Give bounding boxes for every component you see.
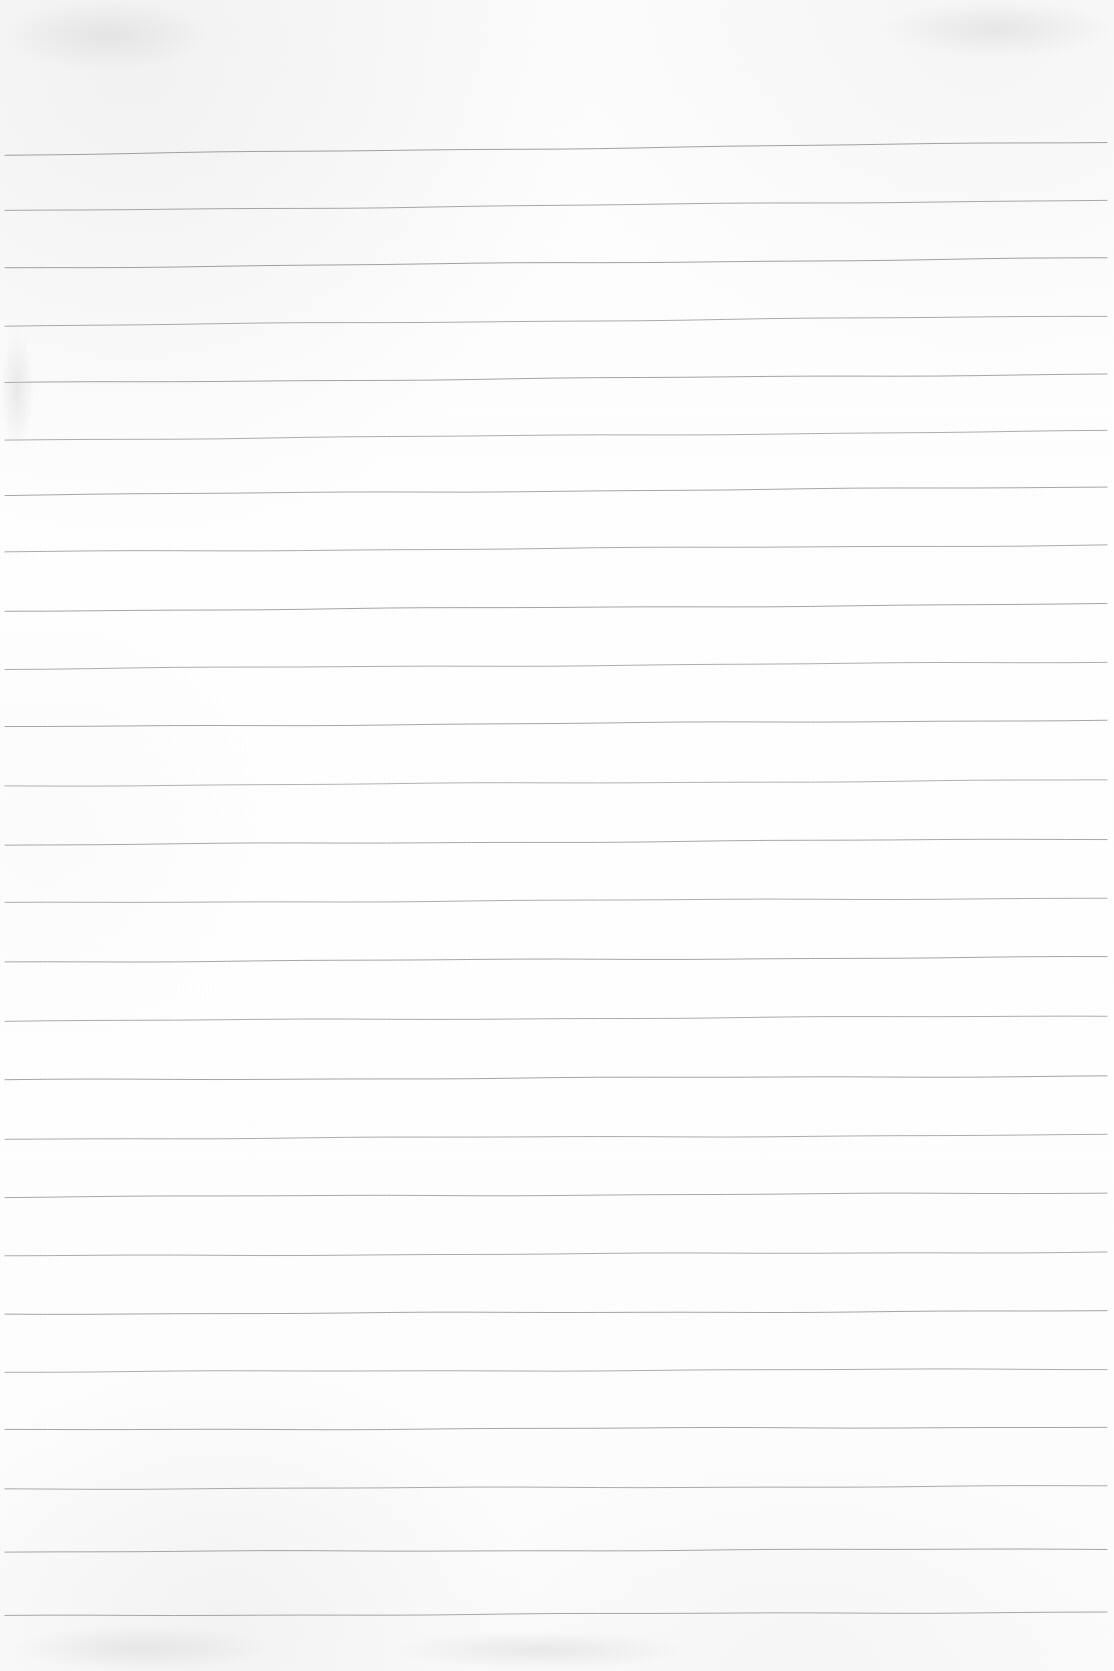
ruled-line — [5, 1369, 1107, 1372]
ruled-line — [5, 316, 1107, 326]
ruled-line — [5, 780, 1107, 786]
ruled-line — [5, 1016, 1107, 1021]
ruled-line — [5, 1427, 1107, 1429]
ruled-line — [5, 1549, 1107, 1552]
ruled-line — [5, 258, 1107, 268]
ruled-line — [5, 200, 1107, 210]
ruled-line — [5, 603, 1107, 611]
ruled-line — [5, 430, 1107, 440]
ruled-line — [5, 143, 1107, 156]
ruled-line — [5, 1134, 1107, 1139]
ruled-line — [5, 1311, 1107, 1315]
rule-line-group — [5, 143, 1107, 1616]
ruled-line — [5, 720, 1107, 726]
ruled-line — [5, 1193, 1107, 1198]
ruled-line — [5, 1076, 1107, 1080]
ruled-lines-layer — [0, 0, 1114, 1671]
ruled-line — [5, 1252, 1107, 1256]
scanned-page — [0, 0, 1114, 1671]
ruled-line — [5, 957, 1107, 962]
ruled-line — [5, 545, 1107, 552]
ruled-line — [5, 898, 1107, 902]
ruled-line — [5, 662, 1107, 669]
ruled-line — [5, 1612, 1107, 1616]
ruled-line — [5, 487, 1107, 495]
ruled-line — [5, 374, 1107, 383]
ruled-line — [5, 839, 1107, 845]
ruled-line — [5, 1486, 1107, 1490]
